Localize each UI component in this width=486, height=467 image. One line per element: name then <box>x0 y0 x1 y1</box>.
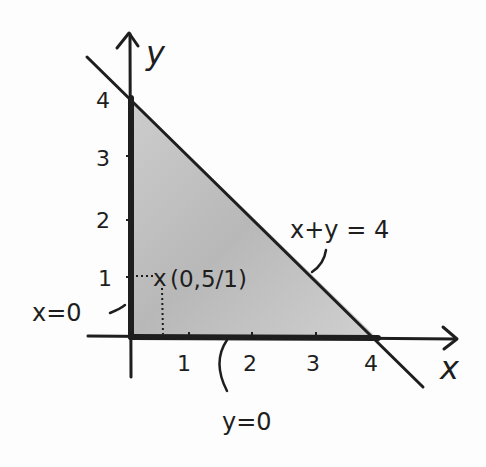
hypotenuse-equation-label: x+y = 4 <box>290 216 389 244</box>
y-tick-label-2: 2 <box>96 208 110 233</box>
y-tick-label-1: 1 <box>98 266 112 291</box>
x-axis-label: x <box>439 349 460 387</box>
coordinate-diagram: y x 4 3 2 1 1 2 3 4 x+y = 4 y=0 x=0 x (0… <box>0 0 486 467</box>
hypotenuse-label-leader <box>312 250 326 272</box>
x-tick-label-4: 4 <box>364 351 378 376</box>
y-axis <box>130 34 131 377</box>
x-tick-label-2: 2 <box>243 351 257 376</box>
y-axis-label: y <box>145 34 166 72</box>
point-coordinate-label: (0,5/1) <box>170 266 247 292</box>
y-axis-equation-label: x=0 <box>32 299 82 327</box>
y-axis-arrow-icon <box>117 33 138 48</box>
x-tick-label-3: 3 <box>306 351 320 376</box>
x-axis-label-leader <box>220 340 228 391</box>
point-marker-icon: x <box>153 265 167 291</box>
diagram-canvas: y x 4 3 2 1 1 2 3 4 x+y = 4 y=0 x=0 x (0… <box>0 0 486 467</box>
x-axis-equation-label: y=0 <box>222 408 272 436</box>
x-tick-label-1: 1 <box>177 351 191 376</box>
y-axis-label-leader <box>110 305 125 313</box>
y-tick-label-3: 3 <box>96 146 110 171</box>
y-tick-label-4: 4 <box>96 88 110 113</box>
